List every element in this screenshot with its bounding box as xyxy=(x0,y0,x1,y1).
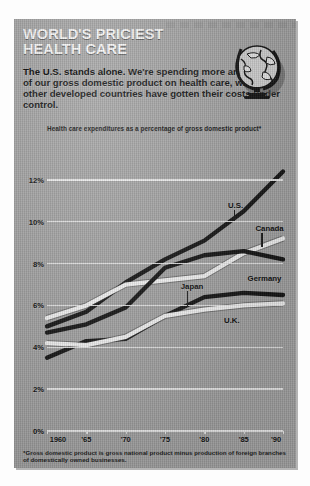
x-axis-label: '85 xyxy=(239,435,249,444)
y-axis-label: 0% xyxy=(33,427,44,436)
x-axis-tick xyxy=(86,431,87,434)
gridline xyxy=(47,347,283,348)
series-label-germany: Germany xyxy=(248,274,282,283)
series-label-us: U.S. xyxy=(228,201,243,210)
y-axis-label: 6% xyxy=(33,301,44,310)
gridline xyxy=(47,263,283,264)
x-axis-label: 1960 xyxy=(50,435,66,444)
x-axis-label: '75 xyxy=(160,435,170,444)
x-axis-label: '90 xyxy=(271,435,281,444)
chart-footnotes: *Gross domestic product is gross nationa… xyxy=(23,449,289,468)
x-axis-tick xyxy=(204,431,205,434)
gridline xyxy=(47,179,283,180)
y-axis-label: 2% xyxy=(33,385,44,394)
series-label-uk: U.K. xyxy=(224,316,240,325)
x-axis-tick xyxy=(47,431,48,434)
infographic-header: WORLD'S PRICIEST HEALTH CARE The U.S. st… xyxy=(14,19,296,118)
globe-icon xyxy=(227,39,289,101)
page-title-line1: WORLD'S PRICIEST xyxy=(23,27,223,42)
x-axis-label: '80 xyxy=(199,435,209,444)
deck-lead: The U.S. stands alone. xyxy=(23,66,125,77)
title-block: WORLD'S PRICIEST HEALTH CARE xyxy=(23,27,223,56)
footnote-gdp: *Gross domestic product is gross nationa… xyxy=(23,449,289,463)
gridline xyxy=(47,221,283,222)
y-axis-label: 4% xyxy=(33,343,44,352)
chart-subtitle: Health care expenditures as a percentage… xyxy=(47,125,287,132)
leader-line-japan xyxy=(187,291,188,306)
x-axis-tick xyxy=(165,431,166,434)
x-axis-tick xyxy=(244,431,245,434)
series-label-canada: Canada xyxy=(255,224,283,233)
leader-line-canada xyxy=(261,233,262,247)
chart-series-lines xyxy=(47,159,283,431)
x-axis-label: '65 xyxy=(81,435,91,444)
gridline xyxy=(47,388,283,389)
series-label-japan: Japan xyxy=(181,282,204,291)
leader-line-us xyxy=(234,210,235,221)
page-title-line2: HEALTH CARE xyxy=(23,42,223,57)
x-axis-tick xyxy=(126,431,127,434)
y-axis-label: 12% xyxy=(29,175,44,184)
gridline xyxy=(47,305,283,306)
x-axis-tick xyxy=(283,431,284,434)
chart-plot-area: 0%2%4%6%8%10%12%U.S.CanadaGermanyJapanU.… xyxy=(14,132,296,444)
chart-canvas: 0%2%4%6%8%10%12%U.S.CanadaGermanyJapanU.… xyxy=(47,159,283,431)
y-axis-label: 10% xyxy=(29,217,44,226)
y-axis-label: 8% xyxy=(33,259,44,268)
x-axis-label: '70 xyxy=(121,435,131,444)
chart-x-axis: 1960'65'70'75'80'85'90 xyxy=(47,431,283,445)
infographic-panel: WORLD'S PRICIEST HEALTH CARE The U.S. st… xyxy=(14,19,296,468)
